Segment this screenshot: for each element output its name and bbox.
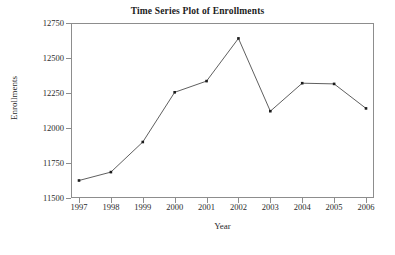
data-point — [237, 37, 240, 40]
y-tick-label: 11500 — [20, 194, 64, 203]
data-point — [333, 83, 336, 86]
data-point — [173, 91, 176, 94]
y-tick-label: 12000 — [20, 124, 64, 133]
data-point — [78, 179, 81, 182]
data-point — [365, 107, 368, 110]
data-point — [205, 80, 208, 83]
x-axis-title: Year — [71, 221, 374, 231]
chart-title: Time Series Plot of Enrollments — [0, 6, 395, 16]
data-point — [141, 141, 144, 144]
data-point — [301, 82, 304, 85]
x-tick-label: 2006 — [346, 203, 386, 212]
y-tick-label: 12500 — [20, 54, 64, 63]
data-point — [110, 171, 113, 174]
time-series-chart: Time Series Plot of Enrollments Enrollme… — [0, 0, 395, 255]
y-tick-label: 11750 — [20, 159, 64, 168]
series-line-enrollments — [79, 38, 366, 180]
y-axis-title: Enrollments — [9, 48, 19, 148]
series-markers-enrollments — [78, 37, 368, 182]
data-point — [269, 110, 272, 113]
y-tick-mark — [66, 198, 71, 199]
plot-series-area — [71, 23, 374, 198]
y-tick-label: 12250 — [20, 89, 64, 98]
y-tick-label: 12750 — [20, 19, 64, 28]
